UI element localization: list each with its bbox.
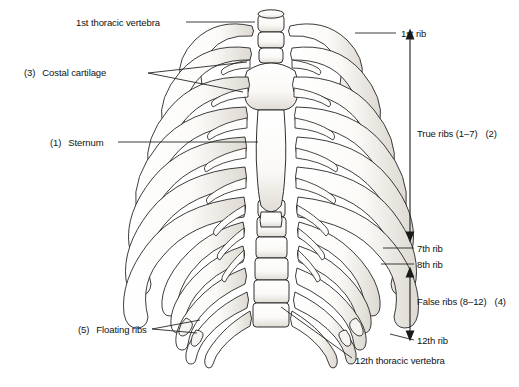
label-eighth-rib: 8th rib — [417, 259, 443, 270]
ribs-right-side — [289, 24, 419, 368]
label-number: (2) — [485, 128, 496, 139]
label-text: False ribs (8–12) — [417, 296, 487, 307]
label-text: 12th thoracic vertebra — [355, 355, 445, 366]
figure-canvas: 1st thoracic vertebra (3)Costal cartilag… — [0, 0, 519, 387]
sternum-bone — [244, 63, 298, 227]
label-text: 7th rib — [417, 243, 443, 254]
label-text: 8th rib — [417, 259, 443, 270]
label-false-ribs: False ribs (8–12)(4) — [417, 296, 506, 307]
label-twelfth-thoracic-vertebra: 12th thoracic vertebra — [355, 355, 445, 366]
label-true-ribs: True ribs (1–7)(2) — [417, 128, 497, 139]
label-number: (4) — [495, 296, 506, 307]
label-floating-ribs: (5)Floating ribs — [78, 324, 147, 335]
label-text: 12th rib — [417, 335, 448, 346]
label-seventh-rib: 7th rib — [417, 243, 443, 254]
label-text: 1st rib — [401, 28, 426, 39]
label-number: (3) — [24, 67, 35, 78]
label-text: Costal cartilage — [42, 67, 106, 78]
ribs-left-side — [123, 24, 253, 368]
label-twelfth-rib: 12th rib — [417, 335, 448, 346]
label-first-rib: 1st rib — [401, 28, 426, 39]
label-first-thoracic-vertebra: 1st thoracic vertebra — [76, 17, 160, 28]
label-number: (5) — [78, 324, 89, 335]
label-sternum: (1)Sternum — [50, 137, 104, 148]
label-text: Floating ribs — [96, 324, 146, 335]
label-number: (1) — [50, 137, 61, 148]
label-text: 1st thoracic vertebra — [76, 17, 160, 28]
label-text: True ribs (1–7) — [417, 128, 477, 139]
label-costal-cartilage: (3)Costal cartilage — [24, 67, 106, 78]
label-text: Sternum — [68, 137, 103, 148]
